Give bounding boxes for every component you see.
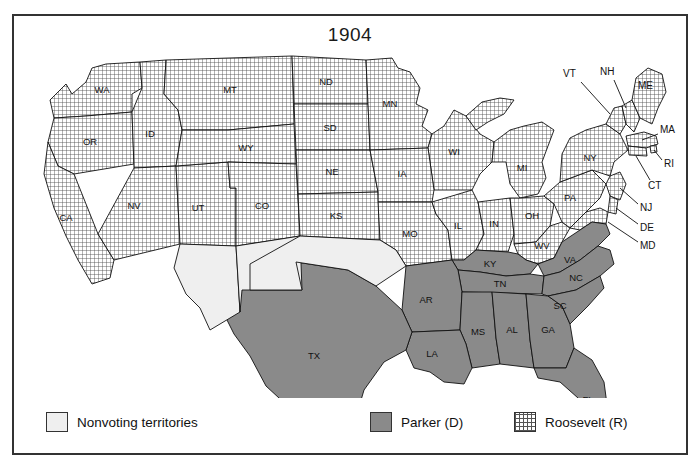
state-label-KS: KS — [330, 210, 343, 221]
legend-swatch-republican — [514, 412, 536, 432]
state-label-LA: LA — [426, 348, 438, 359]
map-legend: Nonvoting territories Parker (D) Rooseve… — [14, 409, 686, 439]
leader-line-MD — [608, 222, 638, 242]
state-label-UT: UT — [192, 202, 205, 213]
state-label-WY: WY — [238, 142, 254, 153]
state-label-DE-callout: DE — [640, 222, 654, 233]
state-label-ME-callout: ME — [638, 80, 653, 91]
state-label-SD: SD — [323, 122, 336, 133]
state-label-CA: CA — [59, 212, 73, 223]
state-label-ID: ID — [145, 128, 155, 139]
state-label-VA: VA — [564, 254, 577, 265]
leader-line-VT — [581, 82, 610, 114]
us-electoral-map: WA OR CA ID NV UT MT WY CO ND SD NE KS M… — [14, 38, 686, 398]
leader-line-RI — [654, 150, 662, 160]
state-label-PA: PA — [564, 192, 577, 203]
state-label-CT-callout: CT — [648, 180, 661, 191]
state-label-OR: OR — [83, 136, 97, 147]
map-figure: 1904 — [0, 0, 699, 468]
legend-label-nonvoting: Nonvoting territories — [77, 415, 198, 430]
state-label-KY: KY — [484, 258, 497, 269]
state-label-NJ-callout: NJ — [640, 202, 652, 213]
state-label-TN: TN — [494, 278, 507, 289]
state-label-WA: WA — [95, 84, 111, 95]
state-NJ[interactable] — [606, 172, 626, 200]
state-label-AL: AL — [506, 324, 518, 335]
legend-swatch-democrat — [370, 412, 392, 432]
state-label-TX: TX — [308, 350, 321, 361]
state-label-FL: FL — [582, 394, 593, 398]
state-label-RI-callout: RI — [664, 158, 674, 169]
state-label-NV: NV — [127, 200, 141, 211]
legend-item-democrat[interactable]: Parker (D) — [370, 412, 463, 432]
state-label-NH-callout: NH — [600, 66, 614, 77]
legend-label-democrat: Parker (D) — [401, 415, 463, 430]
state-label-MI: MI — [517, 162, 528, 173]
map-svg: WA OR CA ID NV UT MT WY CO ND SD NE KS M… — [14, 38, 686, 398]
state-label-WI: WI — [448, 146, 460, 157]
leader-line-NJ — [620, 188, 638, 204]
state-label-NY: NY — [583, 152, 597, 163]
state-UT[interactable] — [176, 162, 236, 246]
legend-swatch-nonvoting — [46, 412, 68, 432]
state-label-GA: GA — [541, 324, 555, 335]
figure-frame: 1904 — [12, 14, 688, 455]
legend-label-republican: Roosevelt (R) — [545, 415, 628, 430]
state-label-NC: NC — [569, 272, 583, 283]
leader-line-NH — [614, 80, 626, 108]
state-label-NE: NE — [325, 166, 338, 177]
state-label-IN: IN — [489, 218, 499, 229]
legend-item-republican[interactable]: Roosevelt (R) — [514, 412, 628, 432]
leader-line-DE — [616, 208, 638, 224]
state-label-IL: IL — [454, 220, 462, 231]
state-MN[interactable] — [366, 58, 432, 150]
state-label-MS: MS — [471, 326, 485, 337]
state-label-MO: MO — [402, 228, 417, 239]
state-label-WV: WV — [534, 240, 550, 251]
state-NV[interactable] — [98, 166, 180, 260]
legend-item-nonvoting[interactable]: Nonvoting territories — [46, 412, 198, 432]
territory-arizona[interactable] — [174, 244, 240, 330]
state-label-MD-callout: MD — [640, 240, 656, 251]
state-label-ND: ND — [319, 76, 333, 87]
leader-line-CT — [636, 156, 650, 180]
state-CT[interactable] — [628, 146, 647, 156]
state-label-SC: SC — [553, 300, 566, 311]
state-label-OH: OH — [525, 210, 539, 221]
state-label-IA: IA — [398, 168, 408, 179]
state-LA[interactable] — [406, 330, 472, 384]
state-label-MA-callout: MA — [660, 124, 675, 135]
state-label-MT: MT — [223, 84, 237, 95]
state-label-CO: CO — [255, 200, 269, 211]
state-label-MN: MN — [383, 98, 398, 109]
state-label-VT-callout: VT — [563, 68, 576, 79]
state-label-AR: AR — [419, 294, 432, 305]
state-WY[interactable] — [176, 124, 296, 166]
